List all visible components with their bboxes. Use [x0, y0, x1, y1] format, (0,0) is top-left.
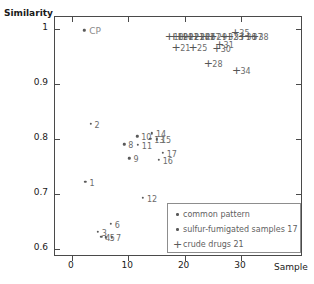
data-point-label: 34 — [240, 66, 250, 75]
data-point-label: 25 — [197, 43, 207, 52]
dot-marker-icon — [110, 223, 112, 225]
x-tick-label: 20 — [164, 260, 204, 270]
x-tick-label: 0 — [51, 260, 91, 270]
dot-marker-icon — [137, 144, 139, 146]
dot-marker-icon — [97, 231, 99, 233]
data-point-label: 8 — [128, 141, 133, 150]
x-tick-label: 10 — [107, 260, 147, 270]
y-tick-right — [296, 29, 301, 30]
x-tick-top — [72, 17, 73, 22]
y-tick — [55, 249, 60, 250]
y-tick-label: 0.9 — [8, 77, 48, 87]
x-tick-label: 30 — [220, 260, 260, 270]
scatter-plot-figure: Similarity Sample CP12345678910111213141… — [0, 0, 314, 284]
y-tick-label: 0.7 — [8, 187, 48, 197]
data-point-label: 31 — [224, 41, 234, 50]
data-point-label: 12 — [147, 194, 157, 203]
y-tick — [55, 139, 60, 140]
data-point-label: 1 — [89, 178, 94, 187]
legend-item-label: common pattern — [183, 210, 296, 219]
data-point-label: 11 — [142, 141, 152, 150]
dot-marker-icon — [128, 157, 130, 159]
x-axis-title: Sample — [274, 262, 308, 272]
y-tick-label: 0.6 — [8, 242, 48, 252]
x-tick-top — [241, 17, 242, 22]
data-point-label: 2 — [95, 120, 100, 129]
dot-marker-icon — [161, 151, 163, 153]
dot-marker-icon — [172, 210, 183, 219]
legend-item: sulfur-fumigated samples 17 — [172, 222, 296, 237]
y-tick — [55, 29, 60, 30]
y-tick — [55, 194, 60, 195]
plus-marker-icon: + — [172, 239, 183, 250]
dot-marker-icon — [83, 29, 85, 31]
data-point-label: CP — [89, 26, 101, 36]
dot-marker-icon — [84, 181, 86, 183]
dot-marker-icon — [89, 122, 91, 124]
dot-marker-icon — [123, 143, 125, 145]
data-point-label: 38 — [259, 33, 269, 42]
legend-item-label: sulfur-fumigated samples 17 — [183, 225, 298, 234]
y-tick-right — [296, 139, 301, 140]
x-tick-top — [185, 17, 186, 22]
y-tick-label: 0.8 — [8, 132, 48, 142]
data-point-label: 15 — [161, 136, 171, 145]
x-tick-top — [128, 17, 129, 22]
legend-item: common pattern — [172, 207, 296, 222]
legend-item-label: crude drugs 21 — [183, 240, 296, 249]
data-point-label: 28 — [212, 60, 222, 69]
dot-marker-icon — [136, 135, 138, 137]
legend: common patternsulfur-fumigated samples 1… — [167, 203, 301, 253]
data-point-label: 6 — [115, 221, 120, 230]
data-point-label: 9 — [133, 155, 138, 164]
data-point-label: 7 — [116, 234, 121, 243]
y-axis-title: Similarity — [4, 8, 53, 18]
dot-marker-icon — [172, 225, 183, 234]
y-tick — [55, 84, 60, 85]
data-point-label: 17 — [167, 149, 177, 158]
y-tick-right — [296, 194, 301, 195]
dot-marker-icon — [158, 159, 160, 161]
y-tick-label: 1 — [8, 22, 48, 32]
legend-item: +crude drugs 21 — [172, 237, 296, 252]
y-tick-right — [296, 84, 301, 85]
dot-marker-icon — [142, 196, 144, 198]
